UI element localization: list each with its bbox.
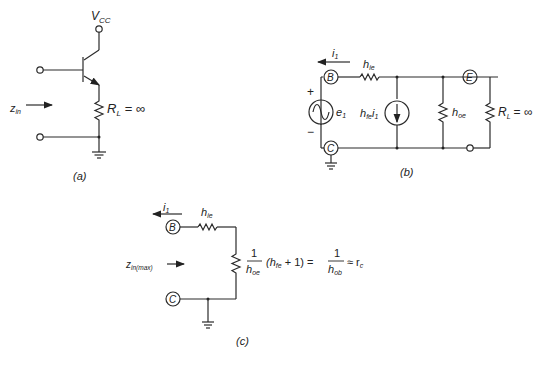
eq-approx: ≈ r — [347, 256, 360, 268]
i1-sub: 1 — [334, 53, 338, 60]
svg-text:hoe: hoe — [246, 263, 260, 276]
hie-sub: ie — [369, 64, 375, 71]
node-b-c-label: B — [169, 222, 176, 233]
svg-text:≈ rc: ≈ rc — [347, 256, 364, 269]
equation: 1 hoe (hfe + 1) = 1 hob ≈ rc — [246, 247, 364, 276]
hie-resistor — [360, 74, 379, 80]
svg-text:zin(max): zin(max) — [125, 259, 153, 272]
svg-text:e1: e1 — [336, 106, 346, 119]
svg-text:RL= ∞: RL= ∞ — [107, 101, 145, 118]
svg-text:hoe: hoe — [452, 106, 466, 119]
svg-text:(hfe + 1) =: (hfe + 1) = — [266, 256, 313, 269]
vcc-sub: CC — [99, 16, 111, 25]
caption-a: (a) — [73, 170, 87, 182]
caption-b: (b) — [400, 166, 414, 178]
rl-resistor — [95, 98, 103, 123]
svg-text:i1: i1 — [332, 47, 338, 60]
rl-b-value: = ∞ — [514, 105, 533, 119]
diagram-b: i1 hie + − e1 B hfei1 hoe E — [307, 47, 532, 178]
svg-text:VCC: VCC — [91, 9, 111, 25]
rl-b-label: R — [498, 105, 507, 119]
eq-numerator-1: 1 — [251, 247, 257, 259]
base-input-terminal — [37, 67, 43, 73]
rl-value: = ∞ — [125, 101, 145, 116]
hie-c-sub: ie — [207, 212, 213, 219]
node-e-label: E — [466, 72, 473, 83]
svg-text:hob: hob — [328, 263, 342, 276]
eq-numerator-2: 1 — [334, 247, 340, 259]
e1-sub: 1 — [342, 112, 346, 119]
node-b-label: B — [327, 72, 334, 83]
svg-text:i1: i1 — [163, 201, 169, 214]
node-c-c-label: C — [169, 294, 177, 305]
hoe-resistor — [439, 101, 447, 124]
svg-text:zin: zin — [9, 102, 21, 115]
zin-max-sub: in(max) — [131, 264, 153, 272]
eq-denominator-2-sub: ob — [334, 269, 342, 276]
zin-sub: in — [16, 108, 22, 115]
svg-text:hie: hie — [201, 206, 213, 219]
output-terminal — [467, 145, 473, 151]
i1-c-sub: 1 — [165, 207, 169, 214]
minus-sign: − — [307, 125, 314, 139]
eq-rc-sub: c — [360, 262, 364, 269]
plus-sign: + — [307, 85, 314, 99]
hoe-sub: oe — [458, 112, 466, 119]
equivalent-resistor — [232, 252, 240, 275]
rl-resistor-b — [486, 101, 494, 124]
rl-sub: L — [116, 109, 120, 118]
bottom-input-terminal — [37, 134, 43, 140]
emitter-arrow — [84, 76, 99, 85]
rl-b-sub: L — [507, 113, 511, 120]
diagram-a: VCC RL= ∞ zin (a) — [9, 9, 145, 182]
eq-hfe: (h — [266, 256, 276, 268]
caption-c: (c) — [236, 335, 249, 347]
ground-icon — [92, 152, 106, 158]
node-c-label: C — [327, 143, 335, 154]
hie-c-resistor — [198, 224, 217, 230]
ground-icon — [202, 322, 214, 328]
circuit-figure: VCC RL= ∞ zin (a) i1 — [0, 0, 539, 365]
rl-label: R — [107, 101, 116, 116]
eq-denominator-1-sub: oe — [252, 269, 260, 276]
vcc-terminal — [96, 26, 102, 32]
eq-plus-one: + 1) = — [282, 256, 314, 268]
svg-text:RL= ∞: RL= ∞ — [498, 105, 532, 120]
hfe-i-sub: 1 — [374, 113, 378, 120]
svg-text:hie: hie — [363, 58, 375, 71]
diagram-c: i1 hie B zin(max) C 1 hoe (hfe + 1 — [125, 201, 364, 347]
svg-text:hfei1: hfei1 — [360, 107, 378, 120]
ground-icon — [325, 163, 337, 169]
